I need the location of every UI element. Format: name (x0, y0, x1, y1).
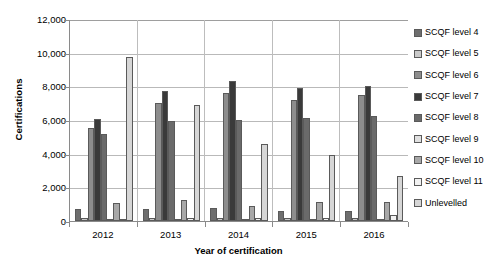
x-axis-tick-mark (205, 222, 206, 227)
y-axis-tick-label: 10,000 (14, 49, 66, 59)
bar-group (70, 20, 138, 221)
bar-group (340, 20, 408, 221)
bar (194, 105, 200, 221)
legend-item[interactable]: Unlevelled (414, 192, 499, 213)
x-axis-tick-label: 2016 (339, 229, 409, 240)
x-axis-tick-mark (408, 222, 409, 227)
bar-group (273, 20, 341, 221)
x-axis-tick-mark (69, 222, 70, 227)
bar (397, 176, 403, 221)
legend-swatch-icon (414, 199, 422, 207)
bar-group (205, 20, 273, 221)
legend-swatch-icon (414, 29, 422, 37)
bar-chart: Certifications 02,0004,0006,0008,00010,0… (0, 0, 499, 267)
legend-swatch-icon (414, 50, 422, 58)
y-axis-tick-label: 6,000 (14, 116, 66, 126)
bar-group-bars (210, 20, 268, 221)
legend-item[interactable]: SCQF level 8 (414, 107, 499, 128)
legend-item-label: SCQF level 11 (425, 177, 483, 186)
legend-item[interactable]: SCQF level 11 (414, 171, 499, 192)
legend-item-label: SCQF level 6 (425, 71, 479, 80)
y-axis-tick-label: 12,000 (14, 15, 66, 25)
y-axis-tick-label: 4,000 (14, 150, 66, 160)
bar-group (138, 20, 206, 221)
legend-swatch-icon (414, 114, 422, 122)
bar (371, 116, 377, 221)
bar (329, 155, 335, 221)
chart-legend: SCQF level 4SCQF level 5SCQF level 6SCQF… (414, 22, 499, 214)
y-axis-tick-label: 8,000 (14, 83, 66, 93)
x-axis-tick-mark (272, 222, 273, 227)
bar (101, 134, 107, 221)
legend-item-label: SCQF level 5 (425, 49, 479, 58)
bar-group-bars (345, 20, 403, 221)
x-axis-title: Year of certification (69, 245, 408, 256)
legend-swatch-icon (414, 71, 422, 79)
bar (261, 144, 267, 221)
legend-item[interactable]: SCQF level 10 (414, 150, 499, 171)
legend-item-label: SCQF level 10 (425, 156, 484, 165)
legend-item[interactable]: SCQF level 4 (414, 22, 499, 43)
bar (168, 121, 174, 221)
y-axis-tick-label: 2,000 (14, 184, 66, 194)
legend-swatch-icon (414, 178, 422, 186)
legend-swatch-icon (414, 135, 422, 143)
bar (236, 120, 242, 221)
bar-group-bars (75, 20, 133, 221)
legend-swatch-icon (414, 93, 422, 101)
bar-group-bars (278, 20, 336, 221)
x-axis-tick-mark (340, 222, 341, 227)
legend-swatch-icon (414, 156, 422, 164)
plot-area (69, 20, 408, 222)
legend-item[interactable]: SCQF level 5 (414, 43, 499, 64)
x-axis-tick-label: 2013 (136, 229, 206, 240)
legend-item[interactable]: SCQF level 6 (414, 65, 499, 86)
bar (303, 118, 309, 221)
x-axis-tick-label: 2012 (68, 229, 138, 240)
x-axis-tick-label: 2015 (271, 229, 341, 240)
legend-item[interactable]: SCQF level 9 (414, 128, 499, 149)
bar-groups (70, 20, 408, 221)
legend-item-label: SCQF level 8 (425, 113, 479, 122)
x-axis-tick-mark (137, 222, 138, 227)
legend-item[interactable]: SCQF level 7 (414, 86, 499, 107)
legend-item-label: SCQF level 7 (425, 92, 479, 101)
legend-item-label: Unlevelled (425, 199, 467, 208)
x-axis-tick-label: 2014 (204, 229, 274, 240)
bar (126, 57, 132, 221)
legend-item-label: SCQF level 4 (425, 28, 479, 37)
y-axis-tick-label: 0 (14, 217, 66, 227)
bar-group-bars (143, 20, 201, 221)
legend-item-label: SCQF level 9 (425, 135, 479, 144)
